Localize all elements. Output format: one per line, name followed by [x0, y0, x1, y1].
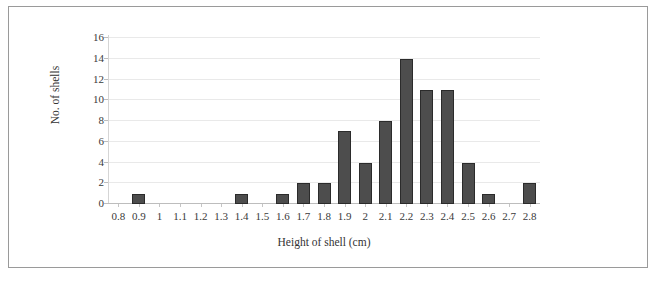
x-axis-tick-mark	[345, 204, 346, 207]
x-axis-tick-mark	[509, 204, 510, 207]
bar	[318, 183, 331, 204]
x-axis-tick-mark	[262, 204, 263, 207]
y-axis-tick-mark	[104, 58, 108, 59]
x-axis-tick-label: 1	[157, 210, 163, 222]
x-axis-tick-mark	[324, 204, 325, 207]
gridline	[108, 37, 540, 38]
x-axis-tick-mark	[365, 204, 366, 207]
y-axis-tick-label: 16	[93, 32, 104, 43]
x-axis-tick-label: 2.4	[441, 210, 455, 222]
bar	[235, 194, 248, 204]
x-axis-tick-label: 2	[362, 210, 368, 222]
x-axis-tick-mark	[303, 204, 304, 207]
x-axis-tick-label: 1.1	[173, 210, 187, 222]
gridline	[108, 58, 540, 59]
x-axis-tick-mark	[530, 204, 531, 207]
y-axis-line	[108, 35, 109, 204]
x-axis-tick-label: 1.2	[194, 210, 208, 222]
x-axis-tick-label: 1.6	[276, 210, 290, 222]
x-axis-tick-mark	[468, 204, 469, 207]
bar	[297, 183, 310, 204]
gridline	[108, 162, 540, 163]
y-axis-tick-labels: 0246810121416	[86, 38, 104, 204]
bar	[482, 194, 495, 204]
x-axis-tick-mark	[139, 204, 140, 207]
bar	[400, 59, 413, 204]
bar	[359, 163, 372, 205]
bar	[462, 163, 475, 205]
y-axis-tick-mark	[104, 37, 108, 38]
y-axis-tick-mark	[104, 99, 108, 100]
bar	[523, 183, 536, 204]
y-axis-tick-mark	[104, 162, 108, 163]
y-axis-tick-label: 10	[93, 94, 104, 105]
y-axis-title: No. of shells	[49, 47, 61, 143]
bar	[441, 90, 454, 204]
bar	[338, 131, 351, 204]
x-axis-tick-mark	[201, 204, 202, 207]
x-axis-tick-label: 1.3	[214, 210, 228, 222]
x-axis-tick-label: 0.9	[132, 210, 146, 222]
x-axis-tick-mark	[180, 204, 181, 207]
x-axis-tick-mark	[447, 204, 448, 207]
x-axis-title: Height of shell (cm)	[108, 236, 540, 248]
x-axis-tick-label: 2.1	[379, 210, 393, 222]
x-axis-tick-label: 1.4	[235, 210, 249, 222]
gridline	[108, 99, 540, 100]
x-axis-tick-mark	[159, 204, 160, 207]
plot-region	[108, 38, 540, 204]
y-axis-tick-mark	[104, 120, 108, 121]
x-axis-tick-label: 1.5	[255, 210, 269, 222]
x-axis-tick-label: 2.6	[482, 210, 496, 222]
gridline	[108, 120, 540, 121]
y-axis-tick-label: 12	[93, 74, 104, 85]
y-axis-tick-mark	[104, 203, 108, 204]
x-axis-tick-label: 2.7	[502, 210, 516, 222]
x-axis-tick-label: 2.5	[461, 210, 475, 222]
x-axis-tick-mark	[386, 204, 387, 207]
bar	[420, 90, 433, 204]
x-axis-tick-mark	[283, 204, 284, 207]
x-axis-tick-mark	[242, 204, 243, 207]
x-axis-tick-label: 0.8	[111, 210, 125, 222]
x-axis-tick-mark	[489, 204, 490, 207]
y-axis-tick-label: 14	[93, 53, 104, 64]
x-axis-tick-label: 2.2	[399, 210, 413, 222]
x-axis-tick-mark	[406, 204, 407, 207]
gridline	[108, 141, 540, 142]
x-axis-tick-label: 1.8	[317, 210, 331, 222]
x-axis-tick-mark	[221, 204, 222, 207]
y-axis-tick-mark	[104, 141, 108, 142]
y-axis-tick-mark	[104, 79, 108, 80]
x-axis-tick-label: 2.8	[523, 210, 537, 222]
x-axis-tick-labels: 0.80.911.11.21.31.41.51.61.71.81.922.12.…	[108, 210, 540, 226]
bar	[132, 194, 145, 204]
x-axis-tick-label: 2.3	[420, 210, 434, 222]
x-axis-tick-mark	[427, 204, 428, 207]
histogram-chart: No. of shells 0246810121416 0.80.911.11.…	[9, 7, 649, 269]
x-axis-tick-mark	[118, 204, 119, 207]
x-axis-tick-label: 1.7	[297, 210, 311, 222]
bar	[379, 121, 392, 204]
gridline	[108, 79, 540, 80]
bar	[276, 194, 289, 204]
y-axis-tick-mark	[104, 182, 108, 183]
chart-figure-frame: No. of shells 0246810121416 0.80.911.11.…	[8, 6, 648, 268]
x-axis-tick-label: 1.9	[338, 210, 352, 222]
